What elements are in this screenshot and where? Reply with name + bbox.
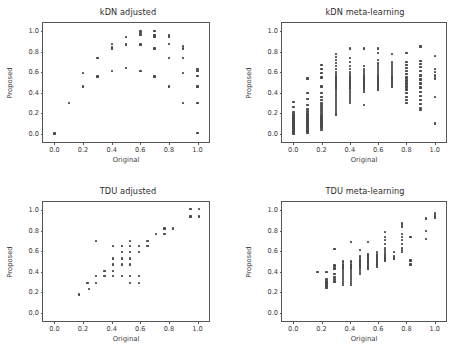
scatter-point: [405, 85, 407, 87]
x-tick-mark: [83, 142, 84, 145]
scatter-point: [434, 96, 436, 98]
scatter-point: [384, 243, 386, 245]
scatter-point: [129, 245, 131, 247]
y-tick-label: 0.8: [268, 48, 279, 56]
y-tick-mark: [280, 231, 283, 232]
scatter-point: [425, 230, 427, 232]
scatter-point: [409, 263, 411, 265]
plot-area: [282, 23, 446, 142]
y-tick-mark: [280, 93, 283, 94]
scatter-point: [292, 106, 294, 108]
scatter-point: [333, 248, 335, 250]
scatter-point: [182, 57, 184, 59]
scatter-point: [168, 85, 170, 87]
scatter-point: [78, 293, 80, 295]
scatter-point: [153, 30, 155, 32]
scatter-point: [377, 52, 379, 54]
x-tick-label: 0.4: [106, 325, 117, 333]
scatter-point: [96, 75, 98, 77]
x-tick-label: 0.2: [316, 146, 327, 154]
panel-kdn-adjusted: kDN adjusted 0.00.20.40.60.81.0 0.00.20.…: [0, 0, 234, 178]
scatter-point: [391, 85, 393, 87]
scatter-point: [163, 233, 165, 235]
scatter-point: [359, 273, 361, 275]
scatter-point: [320, 99, 322, 101]
scatter-point: [409, 259, 411, 261]
scatter-point: [377, 47, 379, 49]
scatter-point: [363, 65, 365, 67]
scatter-point: [401, 222, 403, 224]
scatter-point: [112, 270, 114, 272]
scatter-point: [419, 63, 421, 65]
scatter-point: [320, 96, 322, 98]
scatter-point: [146, 245, 148, 247]
scatter-point: [112, 275, 114, 277]
scatter-point: [419, 99, 421, 101]
scatter-point: [419, 82, 421, 84]
x-tick-label: 1.0: [429, 325, 440, 333]
x-tick-label: 0.4: [106, 146, 117, 154]
panel-title: kDN adjusted: [0, 7, 234, 17]
figure-scatter-grid: kDN adjusted 0.00.20.40.60.81.0 0.00.20.…: [0, 0, 469, 357]
y-tick-mark: [41, 72, 44, 73]
scatter-point: [189, 208, 191, 210]
y-axis-label: Proposed: [5, 246, 13, 277]
y-tick-label: 0.4: [29, 268, 40, 276]
x-tick-mark: [140, 142, 141, 145]
scatter-point: [320, 76, 322, 78]
scatter-point: [419, 66, 421, 68]
scatter-point: [138, 282, 140, 284]
scatter-point: [342, 284, 344, 286]
scatter-point: [384, 236, 386, 238]
scatter-point: [121, 257, 123, 259]
scatter-point: [168, 57, 170, 59]
scatter-point: [196, 132, 198, 134]
x-tick-mark: [322, 321, 323, 324]
scatter-point: [335, 65, 337, 67]
y-tick-mark: [41, 113, 44, 114]
y-tick-mark: [41, 31, 44, 32]
x-tick-label: 0.6: [373, 325, 384, 333]
scatter-point: [153, 75, 155, 77]
scatter-point: [125, 67, 127, 69]
x-tick-mark: [140, 321, 141, 324]
scatter-point: [129, 257, 131, 259]
scatter-point: [111, 47, 113, 49]
scatter-point: [434, 55, 436, 57]
x-tick-label: 0.8: [164, 325, 175, 333]
scatter-point: [419, 78, 421, 80]
scatter-point: [405, 73, 407, 75]
x-tick-label: 0.2: [78, 325, 89, 333]
scatter-point: [111, 70, 113, 72]
y-tick-mark: [280, 272, 283, 273]
scatter-point: [320, 129, 322, 131]
scatter-point: [196, 75, 198, 77]
x-axis-label: Original: [282, 156, 446, 164]
y-tick-label: 0.6: [268, 68, 279, 76]
x-tick-mark: [198, 142, 199, 145]
scatter-point: [182, 72, 184, 74]
scatter-point: [405, 92, 407, 94]
scatter-point: [325, 271, 327, 273]
x-tick-label: 0.0: [49, 146, 60, 154]
scatter-point: [419, 45, 421, 47]
scatter-point: [405, 88, 407, 90]
x-tick-label: 0.2: [316, 325, 327, 333]
scatter-point: [82, 72, 84, 74]
scatter-point: [405, 79, 407, 81]
x-tick-mark: [198, 321, 199, 324]
scatter-point: [391, 53, 393, 55]
x-axis-label: Original: [43, 156, 209, 164]
scatter-point: [129, 251, 131, 253]
scatter-point: [349, 65, 351, 67]
scatter-point: [168, 43, 170, 45]
y-tick-label: 0.6: [29, 247, 40, 255]
y-tick-label: 0.4: [268, 89, 279, 97]
axes-frame: 0.00.20.40.60.81.0 0.00.20.40.60.81.0 Or…: [42, 201, 210, 322]
scatter-point: [335, 53, 337, 55]
x-tick-mark: [435, 142, 436, 145]
x-tick-label: 0.8: [401, 146, 412, 154]
scatter-point: [401, 233, 403, 235]
scatter-point: [419, 109, 421, 111]
scatter-point: [335, 68, 337, 70]
